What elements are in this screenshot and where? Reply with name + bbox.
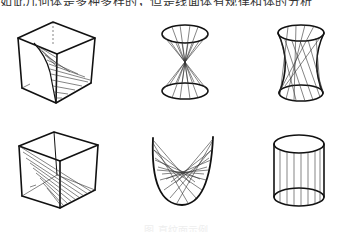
figure-caption: 图 直纹面示例 bbox=[0, 222, 352, 232]
figure-cylinder bbox=[0, 0, 352, 232]
